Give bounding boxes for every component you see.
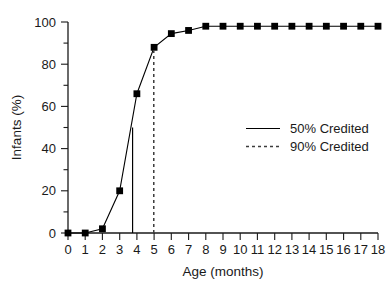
data-point-marker <box>133 90 140 97</box>
data-point-marker <box>82 230 89 237</box>
data-point-marker <box>99 225 106 232</box>
data-point-marker <box>375 23 382 30</box>
data-point-marker <box>288 23 295 30</box>
x-axis-title: Age (months) <box>182 264 263 279</box>
x-tick-label: 14 <box>302 242 316 257</box>
x-tick-label: 6 <box>168 242 175 257</box>
y-tick-label: 100 <box>34 15 56 30</box>
x-tick-label: 3 <box>116 242 123 257</box>
x-tick-label: 0 <box>64 242 71 257</box>
x-tick-label: 18 <box>371 242 385 257</box>
data-point-marker <box>357 23 364 30</box>
legend-label-90: 90% Credited <box>290 139 369 154</box>
x-tick-label: 17 <box>354 242 368 257</box>
x-tick-label: 7 <box>185 242 192 257</box>
data-point-marker <box>168 30 175 37</box>
x-tick-label: 12 <box>267 242 281 257</box>
y-axis-title: Infants (%) <box>9 95 24 160</box>
data-point-marker <box>116 187 123 194</box>
data-point-marker <box>254 23 261 30</box>
line-chart: 0 20 40 60 80 100 Infants (%) <box>0 0 389 294</box>
data-point-marker <box>237 23 244 30</box>
y-tick-label: 60 <box>42 99 56 114</box>
data-point-marker <box>340 23 347 30</box>
chart-container: 0 20 40 60 80 100 Infants (%) <box>0 0 389 294</box>
x-tick-label: 13 <box>285 242 299 257</box>
y-tick-label: 0 <box>49 226 56 241</box>
x-tick-label: 2 <box>99 242 106 257</box>
x-tick-label: 15 <box>319 242 333 257</box>
x-tick-label: 10 <box>233 242 247 257</box>
y-tick-label: 80 <box>42 57 56 72</box>
x-tick-label: 1 <box>82 242 89 257</box>
data-point-marker <box>185 27 192 34</box>
y-tick-label: 20 <box>42 183 56 198</box>
x-tick-label: 4 <box>133 242 140 257</box>
data-point-marker <box>65 230 72 237</box>
data-point-marker <box>323 23 330 30</box>
data-point-marker <box>202 23 209 30</box>
x-tick-label: 9 <box>219 242 226 257</box>
x-tick-label: 11 <box>251 242 265 257</box>
data-point-marker <box>306 23 313 30</box>
x-tick-label: 5 <box>150 242 157 257</box>
x-tick-label: 16 <box>336 242 350 257</box>
y-tick-label: 40 <box>42 141 56 156</box>
data-point-marker <box>151 44 158 51</box>
legend-label-50: 50% Credited <box>290 121 369 136</box>
x-tick-label: 8 <box>202 242 209 257</box>
data-point-marker <box>271 23 278 30</box>
data-point-marker <box>220 23 227 30</box>
